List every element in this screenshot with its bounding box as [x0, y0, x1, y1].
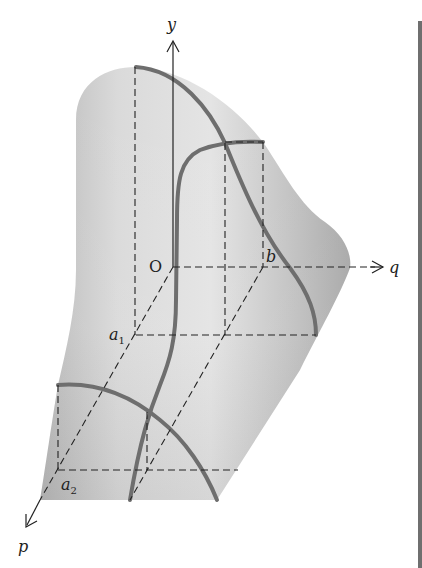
- b-label: b: [266, 247, 276, 266]
- surface: [40, 67, 350, 500]
- p-axis-tail: [27, 500, 40, 525]
- q-axis-label: q: [389, 258, 399, 277]
- p-axis-label: p: [18, 537, 28, 556]
- origin-label: O: [149, 257, 162, 276]
- page-edge-bar: [418, 21, 422, 568]
- surface-diagram: y q p O b a1 a2: [0, 0, 422, 568]
- y-axis-label: y: [166, 15, 177, 34]
